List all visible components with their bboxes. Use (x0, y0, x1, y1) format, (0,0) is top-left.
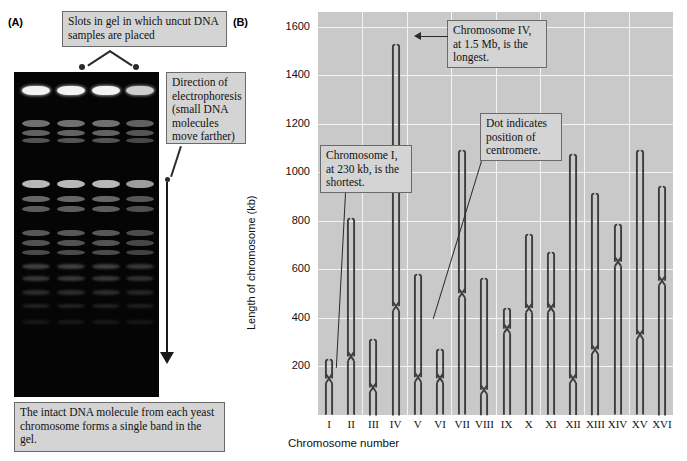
gel-band (92, 180, 120, 188)
chromatid-upper-arms (548, 253, 554, 308)
gel-band (57, 250, 85, 255)
y-axis-tick-label: 800 (264, 214, 310, 226)
x-axis-label: Chromosome number (0, 437, 687, 449)
pointer-line-right (87, 50, 111, 66)
gel-band (126, 138, 154, 143)
gel-electrophoresis-image (14, 72, 159, 397)
gel-band (57, 196, 85, 202)
gel-band (57, 120, 85, 127)
gel-lane (22, 72, 50, 397)
chromatid-lower-arms (548, 313, 554, 415)
y-axis-tick-label: 1200 (264, 117, 310, 129)
gel-band (22, 276, 50, 281)
gel-band (92, 290, 120, 295)
y-axis-tick-label: 400 (264, 311, 310, 323)
chromosome-bar (477, 278, 491, 415)
gel-band (57, 276, 85, 281)
gel-band (22, 304, 50, 308)
chromatid-upper-arms (659, 186, 665, 280)
gel-band (92, 206, 120, 212)
panel-a-letter: (A) (8, 16, 23, 28)
gel-band (126, 264, 154, 269)
chromatid-lower-arms (459, 298, 465, 415)
chromatid-lower-arms (326, 383, 332, 415)
gel-band (22, 86, 50, 95)
chromosome-bar (544, 252, 558, 415)
gel-band (126, 304, 154, 308)
gel-band (57, 264, 85, 269)
chromatid-upper-arms (370, 339, 376, 387)
gel-band (22, 250, 50, 255)
gel-band (126, 290, 154, 295)
chromatid-lower-arms (592, 354, 598, 415)
gel-band (126, 240, 154, 246)
chromosome-bar (566, 154, 580, 415)
gel-band (57, 206, 85, 212)
chromosome-bar (588, 193, 602, 415)
gel-band (22, 230, 50, 236)
chromatid-lower-arms (526, 313, 532, 415)
gel-band (57, 180, 85, 188)
pointer-dot-right (133, 64, 139, 70)
gel-band (22, 290, 50, 295)
centromere-dot (481, 385, 487, 394)
gel-band (92, 240, 120, 246)
gel-band (126, 230, 154, 236)
chromatid-lower-arms (415, 382, 421, 415)
chromosome-bar (433, 349, 447, 415)
gel-band (57, 304, 85, 308)
chromatid-upper-arms (481, 278, 487, 389)
y-axis-tick-label: 1600 (264, 20, 310, 32)
gel-band (126, 276, 154, 281)
chromatid-upper-arms (526, 235, 532, 308)
centromere-dot (637, 330, 643, 339)
gel-band (92, 250, 120, 255)
chromatid-lower-arms (481, 394, 487, 415)
gridline-vertical (362, 12, 363, 415)
y-axis-label: Length of chromosome (kb) (245, 195, 257, 330)
chromatid-lower-arms (370, 392, 376, 415)
chromosome-bar (611, 224, 625, 415)
gridline-vertical (540, 12, 541, 415)
gel-band (57, 320, 85, 324)
chromatid-lower-arms (503, 333, 509, 415)
y-axis-tick-label: 1000 (264, 165, 310, 177)
gel-band (57, 230, 85, 236)
gel-band (126, 130, 154, 136)
gel-band (126, 180, 154, 188)
gel-band (126, 320, 154, 324)
gel-band (92, 320, 120, 324)
gridline-vertical (629, 12, 630, 415)
gel-band (22, 240, 50, 246)
chromosome-bar (344, 218, 358, 415)
callout-centromere-dot: Dot indicates position of centromere. (480, 113, 562, 161)
gel-band (92, 264, 120, 269)
gel-band (57, 130, 85, 136)
chromosome-bar (366, 339, 380, 415)
chromatid-upper-arms (348, 219, 354, 357)
gel-band (22, 206, 50, 212)
chromosome-bar (411, 274, 425, 415)
callout-chromosome-i-shortest: Chromosome I, at 230 kb, is the shortest… (320, 145, 412, 193)
chromatid-upper-arms (570, 155, 576, 379)
gel-lane (126, 72, 154, 397)
gel-band (92, 230, 120, 236)
chromatid-lower-arms (437, 383, 443, 415)
chromatid-lower-arms (659, 285, 665, 415)
centromere-dot (459, 289, 465, 298)
gridline-vertical (451, 12, 452, 415)
longest-leader-line (419, 36, 448, 37)
chromosome-bar (389, 44, 403, 415)
gel-band (92, 86, 120, 95)
chromosome-chart-plot-area (318, 12, 673, 415)
longest-arrow-head (414, 32, 421, 40)
gel-band (57, 240, 85, 246)
gel-band (22, 196, 50, 202)
panel-b-letter: (B) (233, 16, 248, 28)
callout-direction-of-electrophoresis: Direction of electrophoresis (small DNA … (166, 72, 246, 144)
pointer-line-left (109, 50, 133, 66)
chromatid-lower-arms (570, 383, 576, 415)
gel-band (92, 138, 120, 143)
gel-band (22, 264, 50, 269)
gel-band (126, 86, 154, 95)
